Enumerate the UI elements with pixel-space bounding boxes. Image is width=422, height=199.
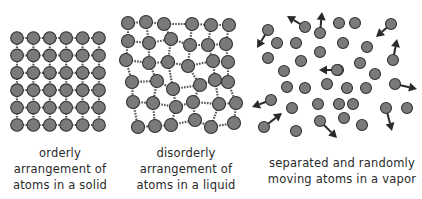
vapor-atom [388, 55, 399, 66]
solid-atom [76, 101, 89, 114]
solid-atom [60, 84, 73, 97]
caption-vapor-line-2: moving atoms in a vapor [262, 171, 422, 187]
vapor-atom [263, 53, 274, 64]
liquid-atom [143, 37, 156, 50]
liquid-atom [147, 97, 160, 110]
solid-atom [11, 49, 24, 62]
vapor-atom [350, 18, 361, 29]
liquid-atom [187, 96, 200, 109]
caption-vapor: separated and randomly moving atoms in a… [262, 155, 422, 187]
liquid-atom [120, 54, 133, 67]
solid-atom [93, 101, 106, 114]
solid-atom [76, 49, 89, 62]
vapor-atom [315, 47, 326, 58]
caption-vapor-line-1: separated and randomly [262, 155, 422, 171]
vapor-atom [282, 82, 293, 93]
caption-liquid-line-3: atoms in a liquid [122, 177, 250, 193]
liquid-atom [143, 57, 156, 70]
caption-solid-line-1: orderly [0, 145, 120, 161]
vapor-atom [402, 103, 413, 114]
vapor-atom [287, 103, 298, 114]
solid-atom [11, 119, 24, 132]
vapor-atom [342, 83, 353, 94]
solid-atom [93, 67, 106, 80]
vapor-atom [279, 66, 290, 77]
solid-atom [27, 32, 40, 45]
solid-atom [60, 49, 73, 62]
solid-atom [44, 67, 57, 80]
liquid-atom [165, 33, 178, 46]
solid-atom [93, 49, 106, 62]
solid-atom [93, 32, 106, 45]
vapor-atom [355, 58, 366, 69]
liquid-atom [158, 18, 171, 31]
caption-solid-line-3: atoms in a solid [0, 177, 120, 193]
liquid-atom [186, 18, 199, 31]
solid-atom [27, 101, 40, 114]
solid-atom [27, 84, 40, 97]
vapor-atom [332, 65, 343, 76]
solid-atom [11, 32, 24, 45]
vapor-atom [362, 42, 373, 53]
solid-atom [27, 119, 40, 132]
liquid-atom [189, 114, 202, 127]
caption-solid: orderly arrangement of atoms in a solid [0, 145, 120, 193]
solid-atom [76, 32, 89, 45]
vapor-atom [334, 18, 345, 29]
liquid-atom [223, 19, 236, 32]
liquid-atom [209, 74, 222, 87]
vapor-atom [259, 122, 270, 133]
vapor-atom [339, 113, 350, 124]
liquid-atom [194, 79, 207, 92]
liquid-atom [140, 16, 153, 29]
vapor-atom [370, 69, 381, 80]
vapor-atom [272, 38, 283, 49]
liquid-atom [202, 39, 215, 52]
liquid-atom [230, 97, 243, 110]
liquid-atom [205, 121, 218, 134]
liquid-atom [220, 38, 233, 51]
caption-solid-line-2: arrangement of [0, 161, 120, 177]
solid-atom [60, 67, 73, 80]
vapor-atom [296, 56, 307, 67]
arrow-head-icon [408, 83, 417, 92]
liquid-atom [207, 55, 220, 68]
vapor-atom [300, 83, 311, 94]
vapor-atom [300, 22, 311, 33]
solid-atom [93, 84, 106, 97]
arrow-head-icon [386, 122, 395, 131]
solid-atom [27, 67, 40, 80]
solid-atom [76, 84, 89, 97]
liquid-atom [228, 117, 241, 130]
vapor-atom [338, 38, 349, 49]
solid-atom [11, 67, 24, 80]
arrow-head-icon [317, 12, 326, 20]
liquid-atom [184, 39, 197, 52]
vapor-atom [334, 99, 345, 110]
liquid-atom [165, 119, 178, 132]
vapor-atom [313, 99, 324, 110]
caption-liquid: disorderly arrangement of atoms in a liq… [122, 145, 250, 193]
vapor-atom [386, 19, 397, 30]
solid-atom [60, 32, 73, 45]
liquid-atom [222, 76, 235, 89]
liquid-atom [126, 76, 139, 89]
arrow-head-icon [319, 66, 327, 75]
liquid-atom [222, 56, 235, 69]
liquid-atom [162, 56, 175, 69]
solid-atom [60, 119, 73, 132]
vapor-atom [291, 38, 302, 49]
liquid-atom [151, 75, 164, 88]
solid-atom [93, 119, 106, 132]
liquid-atom [205, 19, 218, 32]
caption-liquid-line-1: disorderly [122, 145, 250, 161]
liquid-atom [122, 17, 135, 30]
solid-atom [44, 49, 57, 62]
vapor-atom [348, 99, 359, 110]
arrow-head-icon [391, 39, 400, 48]
liquid-atom [127, 96, 140, 109]
solid-atom [76, 119, 89, 132]
solid-atom [44, 84, 57, 97]
liquid-atom [122, 35, 135, 48]
caption-liquid-line-2: arrangement of [122, 161, 250, 177]
